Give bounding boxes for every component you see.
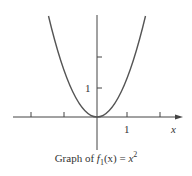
x-axis-label: x — [170, 123, 176, 135]
x-tick-label-1: 1 — [124, 123, 130, 135]
caption-argument: (x) = — [104, 152, 129, 164]
y-tick-label-1: 1 — [85, 82, 91, 94]
y-ticks — [97, 57, 102, 88]
graph-caption: Graph of f1(x) = x2 — [0, 150, 192, 167]
graph-figure: 1 1 x Graph of f1(x) = x2 — [0, 0, 192, 176]
x-axis-arrow-icon — [175, 115, 183, 120]
caption-prefix: Graph of — [55, 152, 97, 164]
caption-exponent: 2 — [133, 150, 137, 159]
